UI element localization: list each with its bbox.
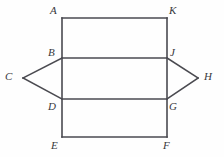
vertex-label-d: D [48, 101, 56, 112]
left-flap-B-C [23, 58, 62, 78]
vertex-label-g: G [169, 101, 177, 112]
vertex-label-k: K [169, 5, 176, 16]
segment-group [23, 18, 198, 137]
vertex-label-a: A [50, 5, 57, 16]
vertex-label-b: B [48, 47, 55, 58]
vertex-label-j: J [170, 47, 175, 58]
vertex-label-h: H [204, 71, 212, 82]
geometry-figure: AKBJCHDGEF [0, 0, 224, 157]
left-flap-C-D [23, 78, 62, 99]
vertex-label-c: C [5, 71, 12, 82]
figure-line-art [0, 0, 224, 157]
vertex-label-f: F [163, 140, 170, 151]
vertex-label-e: E [51, 140, 58, 151]
right-flap-H-G [167, 78, 198, 99]
right-flap-J-H [167, 58, 198, 78]
